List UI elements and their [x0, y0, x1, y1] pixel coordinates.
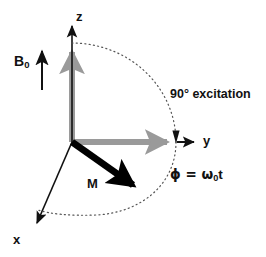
- x-axis: [37, 142, 72, 223]
- excitation-annotation: 90° excitation: [170, 88, 251, 101]
- magnetization-label: M: [87, 177, 98, 190]
- b0-field-label: B0: [14, 54, 29, 70]
- magnetization-vector: [72, 142, 133, 185]
- excitation-arc: [72, 43, 176, 142]
- nmr-vector-diagram: z y x B0 M 90° excitation ϕ = ω0t: [0, 0, 266, 257]
- b0-field-label-text: B: [14, 53, 24, 69]
- phase-annotation-suffix: t: [218, 167, 223, 182]
- y-axis-label: y: [203, 134, 210, 147]
- z-axis-label: z: [76, 10, 83, 23]
- phase-annotation: ϕ = ω0t: [170, 168, 223, 183]
- precession-arc: [38, 142, 176, 215]
- x-axis-label: x: [13, 233, 20, 246]
- diagram-canvas: [0, 0, 266, 257]
- phase-annotation-prefix: ϕ = ω: [170, 166, 213, 182]
- b0-field-label-sub: 0: [24, 59, 29, 70]
